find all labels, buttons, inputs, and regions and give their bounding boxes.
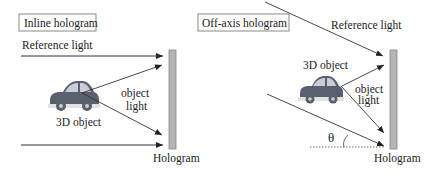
3d-object-label: 3D object: [56, 116, 102, 129]
hologram-plate: [390, 50, 397, 149]
object-light-label-line2: light: [358, 94, 380, 107]
angle-arc: [344, 135, 349, 147]
theta-label: θ: [328, 130, 334, 145]
off-axis-hologram-panel: Off-axis hologram Reference light Hologr…: [198, 2, 421, 165]
object-light-label-line2: light: [126, 100, 148, 113]
car-icon: [48, 81, 100, 111]
3d-object-label: 3D object: [303, 59, 349, 72]
object-light-label-line1: object: [121, 87, 150, 100]
hologram-label: Hologram: [153, 152, 200, 165]
inline-hologram-panel: Inline hologram Reference light Hologram…: [19, 14, 200, 165]
hologram-plate: [169, 50, 176, 149]
hologram-label: Hologram: [374, 152, 421, 165]
hologram-diagram: Inline hologram Reference light Hologram…: [0, 0, 433, 175]
reference-light-label: Reference light: [331, 19, 402, 32]
off-axis-title: Off-axis hologram: [202, 17, 287, 30]
reference-light-label: Reference light: [22, 39, 93, 52]
object-light-arrow-down: [82, 93, 162, 135]
inline-title: Inline hologram: [24, 17, 98, 30]
car-icon: [298, 76, 344, 104]
